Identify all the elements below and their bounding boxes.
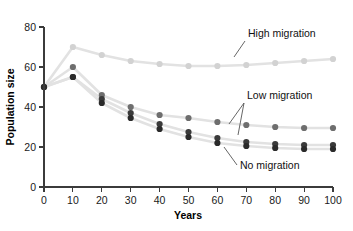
data-point-marker	[128, 104, 134, 110]
x-tick-label: 20	[96, 194, 108, 206]
x-tick-label: 10	[67, 194, 79, 206]
x-tick-label: 40	[154, 194, 166, 206]
data-point-marker	[185, 63, 191, 69]
x-tick-label: 60	[212, 194, 224, 206]
y-tick-label: 20	[24, 141, 36, 153]
x-axis-title: Years	[174, 209, 202, 221]
data-point-marker	[128, 115, 134, 121]
data-point-marker	[301, 125, 307, 131]
x-tick-label: 80	[269, 194, 281, 206]
annotation-high-migration: High migration	[234, 27, 316, 57]
data-point-marker	[214, 140, 220, 146]
data-point-marker	[243, 143, 249, 149]
data-point-marker	[330, 125, 336, 131]
data-point-marker	[185, 134, 191, 140]
data-point-marker	[214, 63, 220, 69]
data-point-marker	[243, 62, 249, 68]
data-point-marker	[70, 64, 76, 70]
data-point-marker	[272, 145, 278, 151]
data-point-marker	[272, 60, 278, 66]
data-point-marker	[330, 146, 336, 152]
x-tick-label: 30	[125, 194, 137, 206]
no-migration-leader-line	[224, 147, 237, 165]
data-point-marker	[185, 115, 191, 121]
data-point-marker	[157, 61, 163, 67]
data-point-marker	[330, 56, 336, 62]
data-point-marker	[272, 124, 278, 130]
data-point-marker	[70, 44, 76, 50]
data-point-marker	[243, 122, 249, 128]
x-axis-ticks: 0102030405060708090100	[41, 187, 342, 206]
x-tick-label: 0	[41, 194, 47, 206]
data-point-marker	[128, 58, 134, 64]
x-tick-label: 70	[240, 194, 252, 206]
data-point-marker	[301, 58, 307, 64]
high-migration-leader-line	[234, 41, 245, 57]
data-point-marker	[99, 52, 105, 58]
x-tick-label: 100	[324, 194, 342, 206]
y-tick-label: 40	[24, 101, 36, 113]
cropped-caption-remnant	[6, 0, 256, 6]
y-tick-label: 60	[24, 61, 36, 73]
data-point-marker	[99, 100, 105, 106]
y-tick-label: 0	[30, 181, 36, 193]
no-migration-label: No migration	[240, 159, 300, 171]
data-point-marker	[157, 126, 163, 132]
annotation-no-migration: No migration	[224, 147, 300, 171]
data-point-marker	[70, 74, 76, 80]
line-chart: 020406080 0102030405060708090100 Years P…	[0, 0, 353, 231]
y-axis-ticks: 020406080	[24, 21, 44, 193]
x-tick-label: 50	[183, 194, 195, 206]
y-axis-title: Population size	[4, 68, 16, 145]
population-migration-chart-figure: 020406080 0102030405060708090100 Years P…	[0, 0, 353, 231]
data-point-marker	[214, 119, 220, 125]
data-point-marker	[301, 146, 307, 152]
y-tick-label: 80	[24, 21, 36, 33]
x-tick-label: 90	[298, 194, 310, 206]
low-migration-label: Low migration	[247, 89, 313, 101]
high-migration-label: High migration	[248, 27, 316, 39]
data-point-marker	[157, 112, 163, 118]
